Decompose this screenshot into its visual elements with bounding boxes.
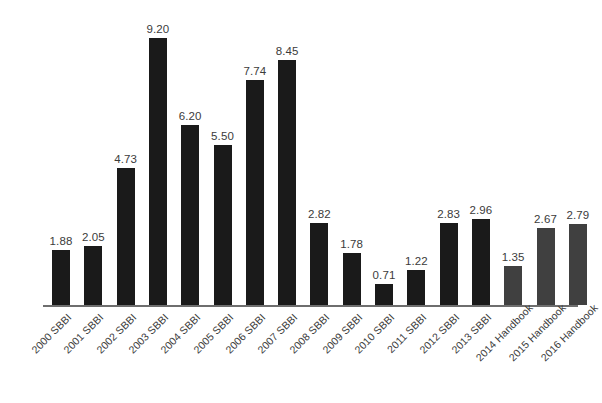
bar (52, 250, 70, 305)
bar (504, 266, 522, 305)
bar-group: 4.73 (114, 168, 138, 305)
bar-group: 7.74 (243, 80, 267, 305)
bar (246, 80, 264, 305)
bar-group: 2.67 (534, 228, 558, 305)
bar-group: 2.83 (437, 223, 461, 305)
bar-value-label: 6.20 (170, 110, 210, 122)
x-axis-line (43, 305, 578, 307)
bar (343, 253, 361, 305)
bar (537, 228, 555, 305)
bar (407, 270, 425, 305)
bar-group: 2.05 (81, 246, 105, 305)
bar (149, 38, 167, 305)
bar-group: 1.88 (49, 250, 73, 305)
bar-group: 1.78 (340, 253, 364, 305)
bar-group: 9.20 (146, 38, 170, 305)
bar (84, 246, 102, 305)
bar-group: 8.45 (275, 60, 299, 305)
bar-value-label: 8.45 (267, 45, 307, 57)
bar-value-label: 9.20 (138, 23, 178, 35)
bar (117, 168, 135, 305)
bar-group: 0.71 (372, 284, 396, 305)
bar (375, 284, 393, 305)
bar-value-label: 2.82 (299, 208, 339, 220)
bar-group: 6.20 (178, 125, 202, 305)
bar (214, 145, 232, 305)
bar (181, 125, 199, 305)
bar-group: 2.82 (307, 223, 331, 305)
bar (310, 223, 328, 305)
bar (278, 60, 296, 305)
bar-value-label: 0.71 (364, 269, 404, 281)
bar (472, 219, 490, 305)
bar-value-label: 7.74 (235, 65, 275, 77)
bar-group: 2.96 (469, 219, 493, 305)
bar-value-label: 2.79 (558, 209, 598, 221)
bar-value-label: 1.78 (332, 238, 372, 250)
bar-value-label: 4.73 (106, 153, 146, 165)
bar-chart: 1.882.054.739.206.205.507.748.452.821.78… (0, 0, 602, 403)
bar (569, 224, 587, 305)
bar-value-label: 2.05 (73, 231, 113, 243)
bar-value-label: 1.35 (493, 251, 533, 263)
bar-group: 1.22 (404, 270, 428, 305)
bar-group: 1.35 (501, 266, 525, 305)
bar-value-label: 5.50 (203, 130, 243, 142)
bar-value-label: 1.22 (396, 255, 436, 267)
bar-group: 5.50 (211, 145, 235, 305)
bar-value-label: 2.96 (461, 204, 501, 216)
bar (440, 223, 458, 305)
bar-group: 2.79 (566, 224, 590, 305)
